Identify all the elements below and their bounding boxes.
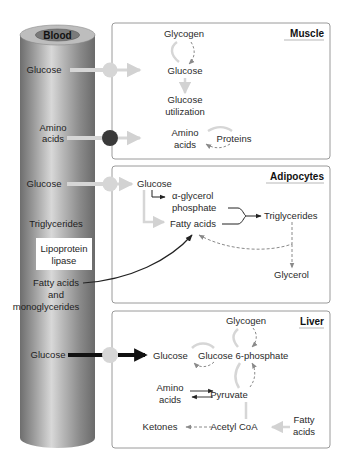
blood-fatty-3: monoglycerides <box>13 301 80 312</box>
blood-fatty-2: and <box>48 289 64 300</box>
blood-lipase-1: Lipoprotein <box>40 243 87 254</box>
muscle-proteins: Proteins <box>217 133 252 144</box>
liver-glucose: Glucose <box>153 350 188 361</box>
liver-amino-1: Amino <box>157 382 184 393</box>
blood-fatty-1: Fatty acids <box>33 277 79 288</box>
liver-title: Liver <box>300 316 324 327</box>
adipocytes-agp-1: α-glycerol <box>172 190 213 201</box>
liver-ketones: Ketones <box>143 421 178 432</box>
blood-glucose-3: Glucose <box>31 349 66 360</box>
liver-glycogen: Glycogen <box>226 315 266 326</box>
muscle-glycogen: Glycogen <box>164 28 204 39</box>
adipocytes-fatty: Fatty acids <box>170 218 216 229</box>
blood-vessel <box>20 25 95 448</box>
blood-glucose-1: Glucose <box>27 64 62 75</box>
blood-glucose-2: Glucose <box>27 178 62 189</box>
adipocytes-agp-2: phosphate <box>172 202 216 213</box>
muscle-glucose: Glucose <box>168 65 203 76</box>
blood-lipase-2: lipase <box>52 255 77 266</box>
muscle-title: Muscle <box>290 28 324 39</box>
liver-acetyl-coa: Acetyl CoA <box>211 421 259 432</box>
muscle-util-2: utilization <box>165 106 205 117</box>
adipocytes-title: Adipocytes <box>270 171 324 182</box>
adipocytes-triglycerides: Triglycerides <box>264 210 318 221</box>
adipocytes-glucose: Glucose <box>137 178 172 189</box>
liver-fatty-1: Fatty <box>293 414 314 425</box>
liver-amino-2: acids <box>159 394 181 405</box>
muscle-amino-2: acids <box>174 139 196 150</box>
liver-fatty-2: acids <box>293 426 315 437</box>
metabolism-diagram: Blood Glucose Amino acids Glucose Trigly… <box>0 0 347 466</box>
blood-title: Blood <box>43 30 71 41</box>
muscle-util-1: Glucose <box>168 94 203 105</box>
liver-g6p: Glucose 6-phosphate <box>198 350 288 361</box>
muscle-amino-1: Amino <box>172 127 199 138</box>
blood-amino-2: acids <box>42 133 64 144</box>
blood-amino-1: Amino <box>40 122 67 133</box>
blood-triglycerides: Triglycerides <box>29 218 83 229</box>
adipocytes-glycerol: Glycerol <box>274 269 309 280</box>
liver-pyruvate: Pyruvate <box>210 389 248 400</box>
